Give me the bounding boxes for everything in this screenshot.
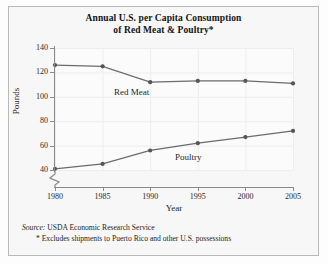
x-tick-mark (150, 187, 151, 191)
x-tick-mark (198, 187, 199, 191)
x-tick-label: 1980 (35, 192, 75, 201)
y-tick-label: 60 (22, 142, 48, 150)
data-point (148, 148, 152, 152)
footnote-source-text: USDA Economic Research Service (45, 223, 154, 232)
footnotes: Source: USDA Economic Research Service *… (22, 222, 312, 244)
footnote-source: Source: USDA Economic Research Service (22, 222, 312, 233)
y-tick-mark (50, 97, 55, 98)
x-tick-mark (293, 187, 294, 191)
y-tick-label: 40 (22, 166, 48, 174)
data-point (196, 141, 200, 145)
data-point (291, 81, 295, 85)
y-tick-label: 120 (22, 68, 48, 76)
y-tick-mark (50, 121, 55, 122)
x-tick-mark (245, 187, 246, 191)
y-axis-title: Pounds (11, 71, 21, 131)
y-tick-label: 80 (22, 117, 48, 125)
data-point (291, 129, 295, 133)
y-tick-mark (50, 72, 55, 73)
data-point (101, 64, 105, 68)
footnote-asterisk: * Excludes shipments to Puerto Rico and … (22, 233, 312, 244)
data-point (196, 79, 200, 83)
y-axis-line (54, 46, 55, 172)
x-tick-label: 2000 (225, 192, 265, 201)
x-tick-label: 2005 (273, 192, 313, 201)
series-line-poultry (55, 131, 293, 169)
y-tick-mark (50, 48, 55, 49)
footnote-source-word: Source: (22, 223, 45, 232)
x-tick-label: 1990 (130, 192, 170, 201)
y-axis-break-icon (48, 170, 62, 188)
data-point (243, 79, 247, 83)
data-point (101, 162, 105, 166)
x-tick-label: 1995 (178, 192, 218, 201)
x-axis-line (54, 187, 294, 188)
y-tick-label: 140 (22, 44, 48, 52)
x-tick-mark (103, 187, 104, 191)
series-line-red-meat (55, 65, 293, 83)
chart-title-line-1: Annual U.S. per Capita Consumption (86, 13, 242, 23)
data-point (243, 135, 247, 139)
x-axis-title: Year (55, 203, 293, 213)
data-point (148, 80, 152, 84)
x-tick-label: 1985 (83, 192, 123, 201)
series-label-red-meat: Red Meat (114, 87, 149, 97)
y-tick-mark (50, 146, 55, 147)
chart-title-line-2: of Red Meat & Poultry* (8, 24, 319, 36)
y-tick-label: 100 (22, 93, 48, 101)
chart-title: Annual U.S. per Capita Consumption of Re… (8, 12, 319, 36)
chart-figure: Annual U.S. per Capita Consumption of Re… (0, 0, 328, 263)
series-label-poultry: Poultry (175, 152, 202, 162)
